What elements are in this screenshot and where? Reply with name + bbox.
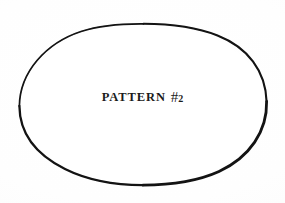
figure-caption: PATTERN#2	[0, 88, 285, 104]
caption-hash-symbol: #	[166, 89, 179, 105]
figure-page: PATTERN#2	[0, 0, 285, 203]
caption-word: PATTERN	[102, 90, 166, 104]
caption-number: 2	[178, 93, 183, 104]
ellipse-fill	[19, 24, 267, 185]
